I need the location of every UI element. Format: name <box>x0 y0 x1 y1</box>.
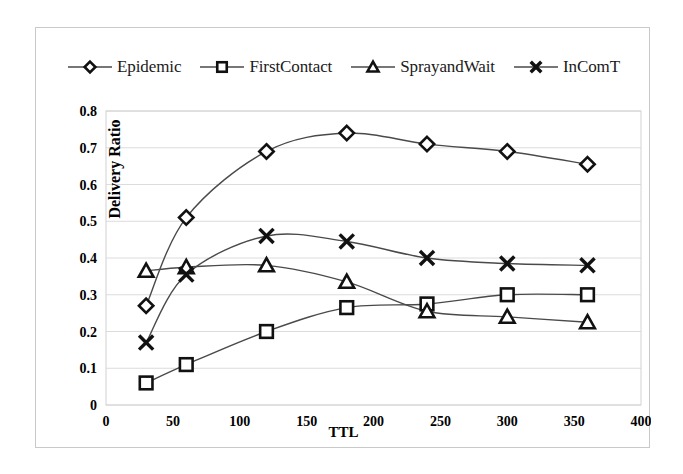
data-point-square <box>501 288 514 301</box>
data-point-diamond <box>139 299 153 313</box>
data-point-triangle <box>139 264 154 277</box>
data-point-cross <box>139 335 153 349</box>
data-point-square <box>340 301 353 314</box>
y-tick-label: 0.6 <box>80 178 98 193</box>
data-point-square <box>581 288 594 301</box>
chart-figure: EpidemicFirstContactSprayandWaitInComT 0… <box>35 27 650 448</box>
y-tick-label: 0.8 <box>80 104 98 119</box>
y-tick-label: 0.5 <box>80 214 98 229</box>
data-point-diamond <box>340 126 354 140</box>
series-line-epidemic <box>146 133 587 306</box>
plot-canvas: 00.10.20.30.40.50.60.70.8 05010015020025… <box>36 28 651 449</box>
y-tick-label: 0.2 <box>80 325 98 340</box>
series-line-sprayandwait <box>146 264 587 322</box>
data-point-triangle <box>500 310 515 323</box>
data-point-diamond <box>179 210 193 224</box>
x-axis-title: TTL <box>36 424 651 441</box>
data-point-cross <box>340 234 354 248</box>
y-axis-title: Delivery Ratio <box>106 84 124 254</box>
data-point-square <box>140 377 153 390</box>
data-point-diamond <box>580 157 594 171</box>
data-point-cross <box>259 229 273 243</box>
y-tick-label: 0.7 <box>80 141 98 156</box>
data-point-square <box>180 358 193 371</box>
data-point-triangle <box>259 258 274 271</box>
y-tick-labels: 00.10.20.30.40.50.60.70.8 <box>80 104 98 413</box>
data-point-square <box>260 325 273 338</box>
data-point-diamond <box>500 144 514 158</box>
data-point-triangle <box>580 315 595 328</box>
data-point-diamond <box>420 137 434 151</box>
series-line-firstcontact <box>146 294 587 383</box>
y-tick-label: 0.3 <box>80 288 98 303</box>
y-tick-label: 0 <box>90 398 97 413</box>
data-point-triangle <box>339 275 354 288</box>
y-tick-label: 0.4 <box>80 251 98 266</box>
data-point-diamond <box>259 144 273 158</box>
y-tick-label: 0.1 <box>80 361 98 376</box>
